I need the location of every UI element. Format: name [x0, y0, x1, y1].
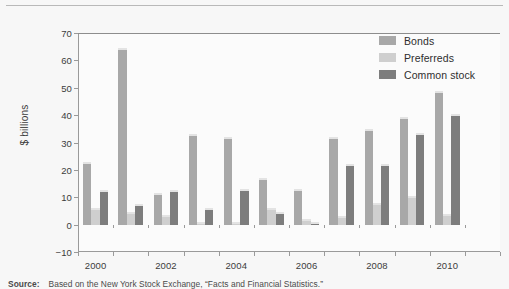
bar-body	[338, 218, 346, 224]
y-axis-label: $ billions	[19, 105, 30, 146]
bar-body	[170, 192, 178, 224]
y-tick-label: 70	[61, 28, 72, 39]
x-tick-mark	[465, 252, 466, 256]
caption-source-word: Source:	[8, 279, 40, 289]
bar[interactable]	[400, 117, 408, 225]
legend-swatch-icon	[379, 70, 396, 79]
bar-body	[83, 164, 91, 225]
legend-item[interactable]: Common stock	[379, 66, 507, 83]
bar-body	[416, 135, 424, 225]
y-tick-mark	[74, 225, 78, 226]
bar-body	[373, 205, 381, 225]
bar[interactable]	[408, 196, 416, 225]
bar[interactable]	[189, 134, 197, 224]
y-tick-mark	[74, 33, 78, 34]
bar[interactable]	[91, 208, 99, 224]
bar[interactable]	[302, 219, 310, 224]
bar-body	[302, 221, 310, 224]
y-tick-mark	[74, 143, 78, 144]
bar[interactable]	[100, 190, 108, 224]
bar[interactable]	[416, 133, 424, 225]
legend-swatch-icon	[379, 53, 396, 62]
bar-body	[451, 116, 459, 225]
bar-body	[259, 180, 267, 225]
legend-item[interactable]: Preferreds	[379, 49, 507, 66]
bar[interactable]	[435, 91, 443, 225]
x-tick-mark	[148, 252, 149, 256]
bar-body	[435, 93, 443, 225]
y-tick-mark	[74, 88, 78, 89]
bar-body	[100, 192, 108, 224]
y-tick-label: 10	[61, 192, 72, 203]
bar[interactable]	[267, 208, 275, 224]
bar[interactable]	[118, 48, 126, 225]
x-tick-label: 2002	[155, 260, 177, 271]
bar-body	[240, 191, 248, 225]
x-tick-mark	[324, 252, 325, 256]
bar[interactable]	[365, 129, 373, 225]
x-tick-mark	[500, 252, 501, 256]
x-tick-mark	[113, 252, 114, 256]
baseline-tick	[324, 225, 325, 228]
chart-legend: BondsPreferredsCommon stock	[379, 32, 507, 83]
bar-body	[135, 206, 143, 225]
bar-body	[294, 191, 302, 225]
y-tick-mark	[74, 115, 78, 116]
x-tick-mark	[78, 252, 79, 256]
bar[interactable]	[443, 214, 451, 225]
baseline-tick	[148, 225, 149, 228]
y-tick-label: 0	[67, 219, 72, 230]
bar[interactable]	[127, 212, 135, 224]
legend-label: Common stock	[404, 69, 475, 81]
legend-swatch-icon	[379, 36, 396, 45]
bar[interactable]	[170, 190, 178, 224]
bar[interactable]	[224, 137, 232, 225]
bar[interactable]	[346, 164, 354, 224]
x-tick-mark	[254, 252, 255, 256]
y-axis-line	[78, 33, 79, 252]
bar-body	[329, 139, 337, 225]
top-divider	[6, 5, 503, 6]
chart-panel: $ billions −10010203040506070 2000200220…	[6, 7, 503, 263]
bar-body	[267, 210, 275, 224]
x-tick-label: 2000	[85, 260, 107, 271]
baseline-tick	[289, 225, 290, 228]
legend-label: Preferreds	[404, 52, 454, 64]
bar-body	[197, 224, 205, 225]
bar-body	[311, 224, 319, 225]
bar[interactable]	[338, 216, 346, 224]
bar[interactable]	[294, 189, 302, 225]
x-tick-label: 2004	[225, 260, 247, 271]
bar[interactable]	[154, 193, 162, 224]
y-tick-mark	[74, 170, 78, 171]
bar[interactable]	[276, 212, 284, 224]
bar[interactable]	[205, 208, 213, 224]
y-tick-label: 40	[61, 110, 72, 121]
bar[interactable]	[197, 222, 205, 225]
bar[interactable]	[373, 203, 381, 225]
baseline-tick	[359, 225, 360, 228]
bar[interactable]	[240, 189, 248, 225]
bar[interactable]	[135, 204, 143, 225]
x-tick-label: 2010	[436, 260, 458, 271]
bar-body	[154, 195, 162, 224]
x-tick-label: 2006	[296, 260, 318, 271]
bar[interactable]	[381, 164, 389, 224]
bar[interactable]	[259, 178, 267, 225]
legend-item[interactable]: Bonds	[379, 32, 507, 49]
y-tick-label: −10	[56, 247, 72, 258]
x-tick-mark	[219, 252, 220, 256]
bar-body	[118, 50, 126, 225]
bar[interactable]	[232, 222, 240, 225]
bar[interactable]	[162, 215, 170, 225]
baseline-tick	[219, 225, 220, 228]
bar-body	[365, 131, 373, 225]
bar[interactable]	[451, 114, 459, 225]
bar[interactable]	[311, 222, 319, 225]
bar-body	[400, 119, 408, 225]
bar-body	[381, 166, 389, 224]
baseline-tick	[113, 225, 114, 228]
bar-body	[205, 210, 213, 224]
bar[interactable]	[329, 137, 337, 225]
bar[interactable]	[83, 162, 91, 225]
